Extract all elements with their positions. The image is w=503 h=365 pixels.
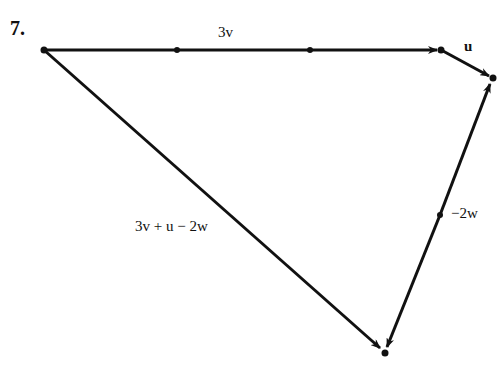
vector-minus-2w-up (440, 84, 490, 215)
vector-result (44, 50, 380, 348)
point-start (41, 47, 48, 54)
vector-minus-2w-down (387, 215, 440, 347)
point-end-result (382, 350, 389, 357)
label-result: 3v + u − 2w (135, 218, 208, 235)
point-end-u (490, 75, 497, 82)
label-3v: 3v (218, 24, 233, 41)
label-u: u (464, 38, 472, 55)
point-v1 (174, 47, 180, 53)
label-minus-2w: −2w (451, 205, 478, 222)
problem-number: 7. (10, 17, 25, 40)
point-end-3v (438, 47, 445, 54)
point-mid-w (437, 212, 443, 218)
vector-diagram (0, 0, 503, 365)
point-v2 (307, 47, 313, 53)
